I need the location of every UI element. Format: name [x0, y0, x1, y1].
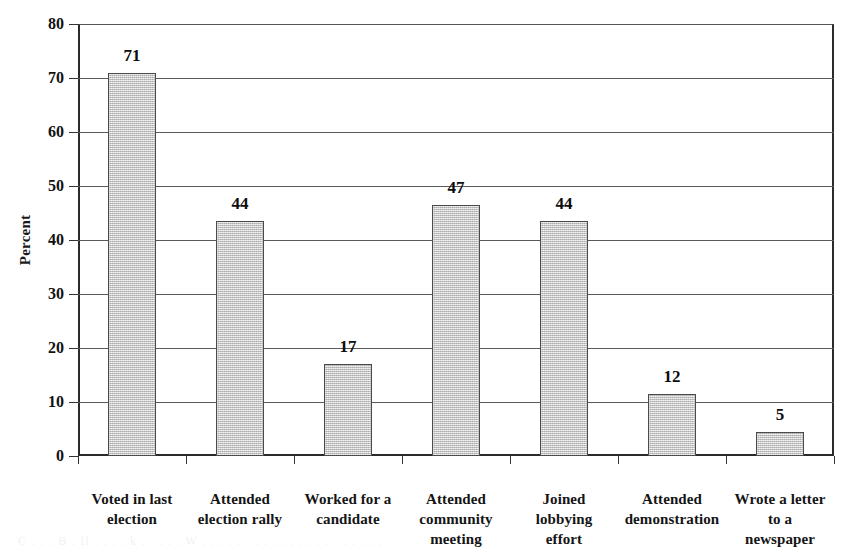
category-label-line: lobbying: [510, 510, 618, 530]
bar-value-label-6: 12: [632, 368, 712, 385]
bar-3: [324, 364, 372, 456]
category-label-line: Joined: [510, 490, 618, 510]
category-label-line: Wrote a letter: [726, 490, 834, 510]
y-tick-mark-30: [69, 294, 78, 295]
y-tick-label-70: 70: [20, 70, 64, 86]
category-label-2: Attendedelection rally: [186, 490, 294, 530]
x-tick-mark-0: [78, 456, 79, 464]
y-tick-mark-0: [69, 456, 78, 457]
y-tick-label-20: 20: [20, 340, 64, 356]
category-label-line: Voted in last: [78, 490, 186, 510]
bar-value-label-3: 17: [308, 338, 388, 355]
y-tick-mark-50: [69, 186, 78, 187]
category-label-line: candidate: [294, 510, 402, 530]
bar-6: [648, 394, 696, 456]
category-label-line: Attended: [618, 490, 726, 510]
bar-2: [216, 221, 264, 456]
x-tick-mark-7: [834, 456, 835, 464]
y-tick-mark-80: [69, 24, 78, 25]
y-tick-mark-10: [69, 402, 78, 403]
category-label-line: Worked for a: [294, 490, 402, 510]
category-label-line: demonstration: [618, 510, 726, 530]
scan-bleed-artifact: C . . . B . ll . . . . k . . . . . W . .…: [18, 534, 848, 546]
y-tick-mark-40: [69, 240, 78, 241]
category-label-6: Attendeddemonstration: [618, 490, 726, 530]
bar-value-label-4: 47: [416, 179, 496, 196]
y-tick-label-50: 50: [20, 178, 64, 194]
gridline-60: [78, 132, 834, 133]
x-tick-mark-1: [186, 456, 187, 464]
bar-chart-figure: Percent 01020304050607080 7144174744125 …: [0, 0, 866, 548]
bar-value-label-5: 44: [524, 195, 604, 212]
x-tick-mark-2: [294, 456, 295, 464]
category-label-line: Attended: [402, 490, 510, 510]
category-label-line: election: [78, 510, 186, 530]
x-tick-mark-3: [402, 456, 403, 464]
y-tick-label-30: 30: [20, 286, 64, 302]
x-tick-mark-4: [510, 456, 511, 464]
category-label-line: to a: [726, 510, 834, 530]
y-tick-mark-20: [69, 348, 78, 349]
y-tick-mark-70: [69, 78, 78, 79]
bar-value-label-7: 5: [740, 406, 820, 423]
y-tick-mark-60: [69, 132, 78, 133]
gridline-70: [78, 78, 834, 79]
category-label-line: election rally: [186, 510, 294, 530]
category-label-1: Voted in lastelection: [78, 490, 186, 530]
bar-value-label-2: 44: [200, 195, 280, 212]
y-tick-label-80: 80: [20, 16, 64, 32]
x-tick-mark-5: [618, 456, 619, 464]
bar-1: [108, 73, 156, 456]
y-tick-label-40: 40: [20, 232, 64, 248]
bar-4: [432, 205, 480, 456]
y-tick-label-10: 10: [20, 394, 64, 410]
category-label-line: Attended: [186, 490, 294, 510]
y-tick-label-60: 60: [20, 124, 64, 140]
bar-7: [756, 432, 804, 456]
category-label-line: community: [402, 510, 510, 530]
x-tick-mark-6: [726, 456, 727, 464]
bar-5: [540, 221, 588, 456]
category-label-3: Worked for acandidate: [294, 490, 402, 530]
y-tick-label-0: 0: [20, 448, 64, 464]
plot-area: 01020304050607080 7144174744125 Voted in…: [78, 24, 834, 456]
bar-value-label-1: 71: [92, 47, 172, 64]
